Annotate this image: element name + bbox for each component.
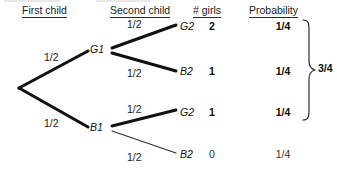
branch-g1-to-g2 (112, 25, 176, 48)
probability-tree-diagram: First child Second child # girls Probabi… (0, 0, 337, 173)
branch-b1-to-g2 (112, 110, 176, 126)
cell-girls-row-2: 1 (197, 66, 227, 77)
edge-label-b1-to-g2: 1/2 (127, 104, 142, 115)
node-label-b2-bottom: B2 (180, 149, 193, 160)
edge-label-root-to-g1: 1/2 (44, 52, 59, 63)
cell-girls-row-1: 2 (197, 21, 227, 32)
grouping-brace-icon (302, 18, 318, 122)
cell-girls-row-3: 1 (197, 107, 227, 118)
node-label-g1: G1 (90, 44, 104, 55)
edge-label-g1-to-b2: 1/2 (127, 68, 142, 79)
node-label-b1: B1 (90, 122, 103, 133)
branch-b1-to-b2 (112, 131, 176, 153)
edge-label-root-to-b1: 1/2 (44, 118, 59, 129)
cell-probability-row-1: 1/4 (266, 21, 300, 32)
node-label-g2-lower: G2 (180, 107, 194, 118)
cell-probability-row-3: 1/4 (266, 107, 300, 118)
node-label-b2-upper: B2 (180, 66, 193, 77)
cell-probability-row-4: 1/4 (266, 149, 300, 160)
branch-g1-to-b2 (112, 53, 176, 71)
edge-label-b1-to-b2: 1/2 (127, 152, 142, 163)
node-label-g2-top: G2 (180, 21, 194, 32)
edge-label-g1-to-g2: 1/2 (127, 19, 142, 30)
brace-total-label: 3/4 (318, 63, 333, 74)
cell-girls-row-4: 0 (197, 149, 227, 160)
cell-probability-row-2: 1/4 (266, 66, 300, 77)
